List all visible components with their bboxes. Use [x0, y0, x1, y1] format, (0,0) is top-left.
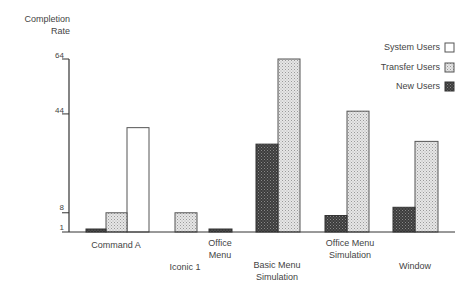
y-tick-1: 1	[44, 223, 64, 232]
x-label-window: Window	[390, 260, 440, 272]
y-axis-title-line2: Rate	[0, 25, 70, 37]
bar-transfer-users-basic-menu-simulation	[278, 59, 300, 232]
bar-transfer-users-office-menu-simulation	[347, 111, 369, 232]
y-tick-8: 8	[44, 203, 64, 212]
legend-swatch-transfer	[445, 63, 454, 72]
y-axis-title-line1: Completion	[0, 13, 70, 25]
legend-swatch-system	[445, 43, 454, 52]
y-axis-title: Completion Rate	[0, 13, 70, 37]
x-label-basic-menu-simulation: Basic Menu Simulation	[242, 259, 312, 283]
legend-label-transfer-users: Transfer Users	[381, 62, 440, 72]
x-label-command-a: Command A	[86, 239, 146, 251]
bar-transfer-users-command-a	[106, 213, 127, 232]
bar-new-users-window	[393, 207, 415, 232]
x-label-iconic-1: Iconic 1	[155, 261, 215, 273]
bar-new-users-office-menu-simulation	[325, 216, 347, 232]
legend-label-new-users: New Users	[396, 81, 440, 91]
legend-label-system-users: System Users	[384, 42, 440, 52]
bar-transfer-users-window	[415, 141, 438, 232]
bars-group	[86, 59, 438, 232]
bar-transfer-users-iconic-1	[175, 213, 197, 232]
x-label-office-menu: Office Menu	[190, 237, 250, 261]
y-tick-64: 64	[44, 51, 64, 60]
y-tick-44: 44	[44, 106, 64, 115]
bar-system-users-command-a	[127, 128, 149, 232]
legend-swatch-new	[445, 82, 454, 91]
x-label-office-menu-simulation: Office Menu Simulation	[315, 237, 385, 261]
bar-new-users-basic-menu-simulation	[256, 144, 278, 232]
